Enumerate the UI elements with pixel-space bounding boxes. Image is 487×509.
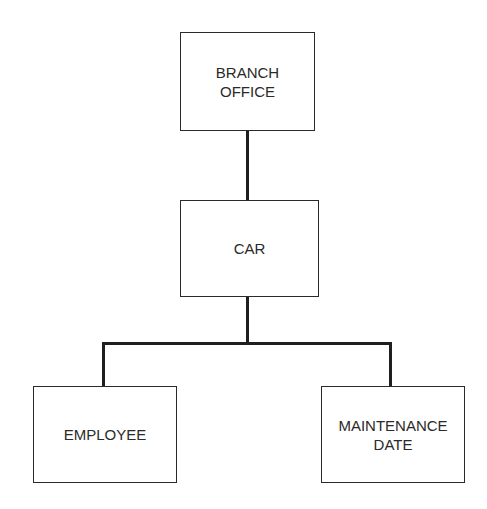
connector-car-down	[246, 296, 249, 344]
node-label: MAINTENANCE DATE	[338, 416, 447, 454]
connector-to-maintenance-date	[389, 342, 392, 387]
node-maintenance-date: MAINTENANCE DATE	[321, 386, 465, 483]
node-car: CAR	[180, 200, 319, 297]
node-branch-office: BRANCH OFFICE	[180, 32, 315, 131]
node-label: BRANCH OFFICE	[216, 63, 279, 101]
connector-to-employee	[102, 342, 105, 387]
connector-horizontal	[102, 342, 392, 345]
connector-branch-to-car	[246, 130, 249, 201]
node-label: EMPLOYEE	[64, 425, 147, 444]
node-label: CAR	[234, 239, 266, 258]
node-employee: EMPLOYEE	[33, 386, 177, 483]
